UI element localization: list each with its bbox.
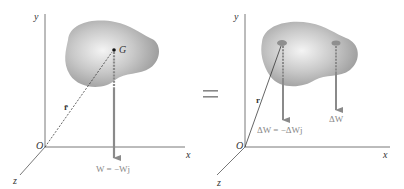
left-position-vector-label: r̄	[64, 102, 68, 112]
right-x-axis-label: x	[382, 149, 388, 160]
left-rigid-body	[65, 21, 159, 87]
right-origin-label: O	[236, 140, 243, 151]
right-z-axis	[217, 147, 245, 175]
centroid-label: G	[119, 44, 126, 55]
left-origin-label: O	[36, 140, 43, 151]
right-rigid-body	[261, 22, 358, 87]
right-z-axis-label: z	[216, 177, 221, 188]
right-y-axis-label: y	[233, 11, 239, 22]
centroid-point-icon	[112, 48, 116, 52]
left-weight-label: W = −Wj	[96, 164, 130, 174]
element-weight-label: ΔW = −ΔWj	[257, 125, 303, 135]
left-z-axis	[20, 147, 45, 175]
mass-element-1-icon	[277, 40, 287, 46]
equals-sign	[203, 90, 218, 98]
left-y-axis-label: y	[33, 11, 39, 22]
left-panel: y x z O G r̄ W = −Wj	[12, 11, 191, 186]
mass-element-2-icon	[332, 40, 341, 45]
rigid-body-weight-diagram: y x z O G r̄ W = −Wj y x z O r Δ	[0, 0, 404, 189]
element-weight-label-2: ΔW	[329, 114, 344, 124]
left-z-axis-label: z	[12, 175, 17, 186]
right-panel: y x z O r ΔW = −ΔWj ΔW	[216, 11, 390, 188]
left-x-axis-label: x	[185, 149, 191, 160]
right-position-vector-label: r	[256, 95, 260, 105]
